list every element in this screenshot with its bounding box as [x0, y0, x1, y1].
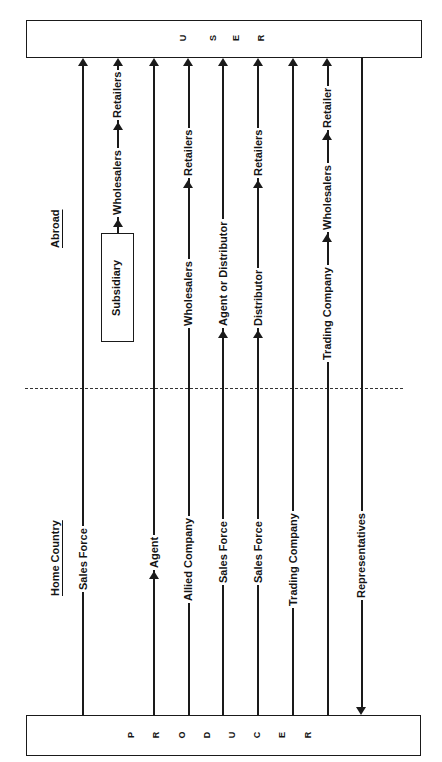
channel-7-trading-company: Trading Company: [287, 511, 299, 608]
channel-5-line: [222, 66, 224, 715]
channel-7-line: [292, 66, 294, 715]
producer-letter: R: [151, 732, 161, 739]
heading-abroad: Abroad: [49, 210, 61, 249]
producer-letter: E: [277, 732, 287, 738]
arrow-up-icon: [149, 571, 159, 579]
channel-3-line: [153, 66, 155, 715]
arrow-up-icon: [78, 58, 88, 66]
arrow-up-icon: [218, 330, 228, 338]
arrow-up-icon: [253, 58, 263, 66]
arrow-up-icon: [288, 58, 298, 66]
producer-letter: C: [252, 732, 262, 739]
arrow-up-icon: [322, 132, 332, 140]
channel-8-retailer: Retailer: [321, 86, 333, 130]
user-box: [26, 20, 422, 58]
heading-home-country: Home Country: [49, 520, 61, 596]
arrow-up-icon: [253, 330, 263, 338]
channel-6-retailers: Retailers: [252, 128, 264, 178]
arrow-up-icon: [322, 234, 332, 242]
channel-5-sales-force: Sales Force: [217, 519, 229, 585]
channel-9-line: [361, 58, 363, 708]
arrow-up-icon: [113, 219, 123, 227]
user-letter: R: [256, 35, 266, 42]
arrow-up-icon: [183, 180, 193, 188]
arrow-up-icon: [149, 58, 159, 66]
arrow-up-icon: [322, 58, 332, 66]
producer-letter: U: [227, 732, 237, 739]
user-letter: U: [178, 35, 188, 42]
channel-6-sales-force: Sales Force: [252, 519, 264, 585]
producer-box: [26, 715, 421, 756]
channel-1-sales-force: Sales Force: [77, 526, 89, 592]
channel-4-allied-company: Allied Company: [182, 516, 194, 603]
channel-4-retailers: Retailers: [182, 128, 194, 178]
channel-9-representatives: Representatives: [355, 511, 367, 600]
producer-letter: P: [126, 732, 136, 738]
producer-letter: D: [202, 732, 212, 739]
arrow-up-icon: [113, 58, 123, 66]
producer-letter: R: [303, 732, 313, 739]
channel-1-line: [82, 66, 84, 715]
arrow-up-icon: [218, 58, 228, 66]
channel-2-retailers: Retailers: [111, 70, 123, 120]
channel-8-wholesalers: Wholesalers: [321, 163, 333, 232]
arrow-up-icon: [113, 122, 123, 130]
channel-8-trading-company: Trading Company: [321, 265, 333, 362]
arrow-up-icon: [253, 180, 263, 188]
channel-2-subsidiary: Subsidiary: [110, 258, 122, 318]
channel-2-wholesalers: Wholesalers: [111, 148, 123, 217]
arrow-down-icon: [356, 707, 366, 715]
producer-letter: O: [177, 731, 187, 738]
channel-5-agent-or-distributor: Agent or Distributor: [217, 220, 229, 329]
channel-4-wholesalers: Wholesalers: [182, 259, 194, 328]
arrow-up-icon: [183, 58, 193, 66]
user-letter: E: [231, 35, 241, 41]
channel-3-agent: Agent: [148, 535, 160, 570]
channel-6-distributor: Distributor: [252, 268, 264, 328]
user-letter: S: [208, 35, 218, 41]
